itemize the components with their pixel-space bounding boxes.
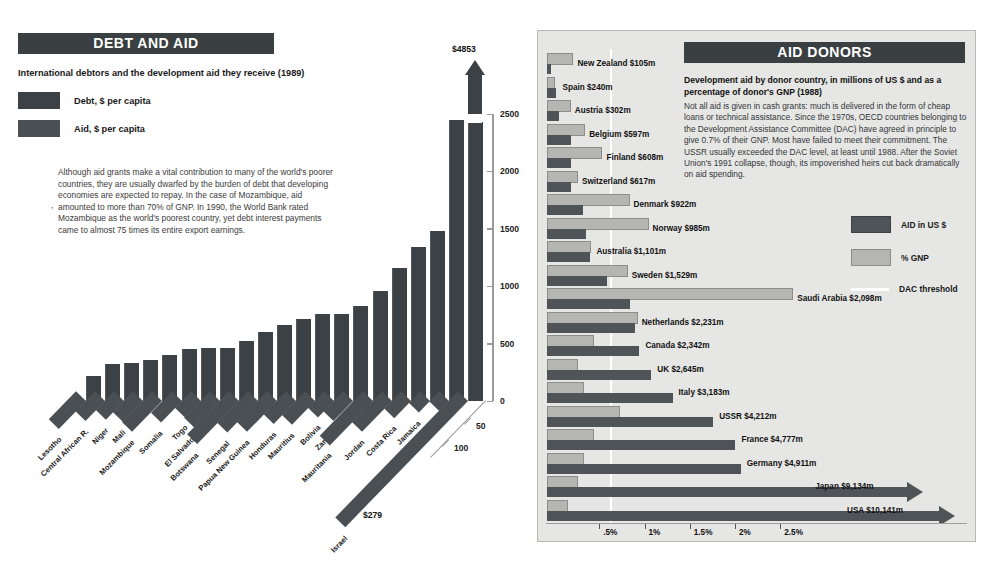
aid-donor-label: Belgium $597m bbox=[589, 130, 649, 139]
aid-donor-label: Canada $2,342m bbox=[645, 341, 709, 350]
aid-donor-label: USA $10,141m bbox=[847, 506, 903, 515]
aid-x-tick-label: .5% bbox=[603, 528, 617, 537]
debt-and-aid-panel: DEBT AND AID International debtors and t… bbox=[0, 0, 540, 567]
debt-bar bbox=[449, 120, 464, 401]
aid-usd-bar bbox=[547, 205, 583, 215]
aid-usd-bar bbox=[547, 370, 651, 380]
debt-bar bbox=[296, 319, 311, 401]
aid-x-tick bbox=[599, 524, 600, 529]
legend-item-pct-gnp: % GNP bbox=[851, 249, 929, 266]
debt-y-axis bbox=[492, 114, 494, 401]
debt-bar bbox=[468, 122, 483, 401]
aid-donor-label: Germany $4,911m bbox=[747, 459, 817, 468]
debt-category-label: Mauritania bbox=[300, 451, 333, 484]
aid-panel-subtitle: Development aid by donor country, in mil… bbox=[684, 75, 965, 98]
legend-label-dac-threshold: DAC threshold bbox=[899, 284, 958, 294]
debt-3d-bar-chart: 05001000150020002500LesothoCentral Afric… bbox=[0, 0, 540, 567]
aid-depth-bar bbox=[384, 391, 411, 418]
aid-usd-bar bbox=[547, 393, 673, 403]
aid-donors-panel: AID DONORS Development aid by donor coun… bbox=[537, 30, 976, 542]
aid-donor-label: USSR $4,212m bbox=[719, 412, 776, 421]
aid-x-tick bbox=[735, 524, 736, 529]
debt-y-tick-label: 500 bbox=[500, 339, 514, 349]
debt-bar-cap bbox=[468, 74, 482, 114]
aid-bar-arrow-tip bbox=[907, 482, 923, 502]
aid-donor-label: Finland $608m bbox=[606, 153, 663, 162]
aid-usd-bar bbox=[547, 229, 586, 239]
aid-donor-label: Australia $1,101m bbox=[596, 247, 666, 256]
aid-donor-label: UK $2,645m bbox=[657, 365, 703, 374]
aid-donor-label: Netherlands $2,231m bbox=[642, 318, 724, 327]
legend-line-dac-threshold bbox=[851, 288, 889, 291]
aid-usd-bar bbox=[547, 182, 571, 192]
aid-usd-bar bbox=[547, 323, 635, 333]
aid-x-tick-label: 1% bbox=[649, 528, 661, 537]
israel-aid-value-label: $279 bbox=[363, 510, 382, 520]
debt-bar bbox=[392, 268, 407, 401]
aid-depth-tick-label: 50 bbox=[476, 421, 486, 431]
aid-donor-label: Saudi Arabia $2,098m bbox=[797, 294, 881, 303]
debt-y-tick bbox=[487, 114, 493, 116]
aid-x-tick bbox=[645, 524, 646, 529]
aid-x-tick-label: 1.5% bbox=[694, 528, 713, 537]
aid-x-tick bbox=[780, 524, 781, 529]
aid-donor-label: France $4,777m bbox=[741, 435, 802, 444]
aid-usd-bar bbox=[547, 88, 556, 98]
aid-usd-bar bbox=[547, 440, 735, 450]
aid-usd-bar bbox=[547, 276, 607, 286]
aid-donor-label: Japan $9,134m bbox=[815, 482, 873, 491]
aid-donor-label: Norway $985m bbox=[653, 224, 710, 233]
aid-donor-label: Italy $3,183m bbox=[679, 388, 730, 397]
aid-usd-bar bbox=[547, 252, 590, 262]
aid-donor-label: Austria $302m bbox=[575, 106, 631, 115]
aid-usd-bar bbox=[547, 299, 630, 309]
debt-category-label: Costa Rica bbox=[364, 424, 398, 458]
aid-donor-label: Switzerland $617m bbox=[582, 177, 655, 186]
legend-swatch-pct-gnp bbox=[851, 249, 891, 266]
legend-item-dac-threshold: DAC threshold bbox=[851, 284, 958, 294]
aid-panel-title: AID DONORS bbox=[684, 42, 965, 63]
aid-usd-bar bbox=[547, 417, 713, 427]
legend-item-aid-usd: AID in US $ bbox=[851, 216, 946, 233]
debt-bar-arrow-tip bbox=[465, 60, 485, 75]
aid-donor-label: Denmark $922m bbox=[634, 200, 697, 209]
aid-donor-label: Sweden $1,529m bbox=[632, 271, 698, 280]
debt-y-tick-label: 1000 bbox=[500, 281, 519, 291]
debt-category-label: Somalia bbox=[138, 429, 165, 456]
aid-donor-label: New Zealand $105m bbox=[577, 59, 655, 68]
aid-usd-bar bbox=[547, 111, 559, 121]
debt-y-tick bbox=[487, 401, 493, 403]
debt-bar bbox=[258, 332, 273, 401]
debt-bar bbox=[411, 247, 426, 401]
debt-y-tick-label: 2500 bbox=[500, 109, 519, 119]
aid-usd-bar bbox=[547, 464, 741, 474]
debt-category-label: Israel bbox=[329, 534, 349, 554]
aid-donor-label: Spain $240m bbox=[562, 83, 612, 92]
axis-break-notch bbox=[468, 118, 482, 123]
debt-y-tick bbox=[487, 343, 493, 345]
debt-y-tick-label: 2000 bbox=[500, 166, 519, 176]
debt-y-tick-label: 1500 bbox=[500, 224, 519, 234]
aid-x-tick-label: 2% bbox=[739, 528, 751, 537]
aid-usd-bar bbox=[547, 158, 571, 168]
aid-usd-bar bbox=[547, 64, 551, 74]
debt-bar bbox=[430, 231, 445, 401]
aid-depth-tick-label: 100 bbox=[454, 443, 468, 453]
aid-x-tick-label: 2.5% bbox=[784, 528, 803, 537]
debt-y-tick bbox=[487, 228, 493, 230]
debt-bar bbox=[353, 306, 368, 401]
debt-category-label: Niger bbox=[90, 426, 110, 446]
dac-threshold-line bbox=[610, 49, 612, 523]
aid-x-tick bbox=[690, 524, 691, 529]
legend-swatch-aid-usd bbox=[851, 216, 891, 233]
legend-label-aid-usd: AID in US $ bbox=[901, 220, 946, 230]
debt-y-tick bbox=[487, 171, 493, 173]
israel-debt-value-label: $4853 bbox=[452, 44, 476, 54]
debt-bar bbox=[277, 325, 292, 401]
debt-category-label: Jordan bbox=[342, 438, 366, 462]
aid-usd-bar bbox=[547, 346, 639, 356]
debt-bar bbox=[334, 314, 349, 401]
debt-bar bbox=[315, 314, 330, 401]
aid-panel-body-text: Not all aid is given in cash grants: muc… bbox=[684, 101, 968, 181]
aid-chart-x-axis: .5%1%1.5%2%2.5% bbox=[546, 523, 967, 540]
